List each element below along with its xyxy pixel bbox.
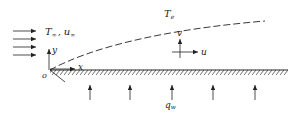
y-axis-label: y <box>51 45 58 55</box>
edge-temperature-label: Te <box>164 8 175 20</box>
freestream-velocity-sub: ∞ <box>70 31 75 38</box>
v-component-label: v <box>177 28 182 38</box>
plate-hatching <box>50 70 288 75</box>
x-axis-label: x <box>78 62 83 72</box>
freestream-label: T∞,u∞ <box>45 26 75 38</box>
freestream-separator: , <box>58 26 61 37</box>
edge-temperature-sub: e <box>171 13 175 20</box>
u-component-label: u <box>201 47 207 57</box>
heat-flux-arrows <box>90 85 255 100</box>
boundary-layer-diagram: T∞,u∞ Te y x o v u qw <box>0 0 301 115</box>
freestream-arrows <box>13 31 36 55</box>
heat-flux-label: qw <box>165 100 177 110</box>
origin-label: o <box>42 71 47 80</box>
heat-flux-sub: w <box>171 103 177 110</box>
freestream-temperature-sub: ∞ <box>52 31 57 38</box>
